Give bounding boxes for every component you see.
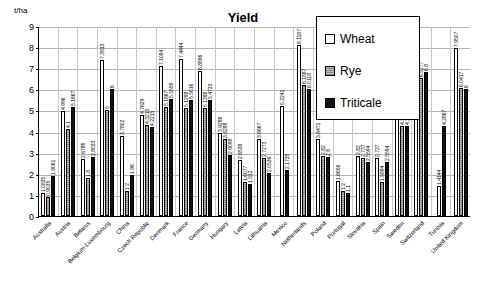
bar-value-label: 5.4733 bbox=[208, 84, 213, 99]
legend-item-rye: Rye bbox=[325, 55, 419, 87]
x-axis-category: Netherlands bbox=[293, 218, 313, 298]
bar-value-label: 2.737 bbox=[375, 145, 380, 158]
bar-wheat: 3.7802 bbox=[120, 136, 124, 216]
bar-rye: 1.6077 bbox=[243, 182, 247, 216]
x-axis-category: Australia bbox=[38, 218, 58, 298]
bar-value-label: 3.7802 bbox=[120, 120, 125, 135]
bar-wheat: 3.9298 bbox=[218, 133, 222, 216]
bar-value-label: 8.1187 bbox=[297, 29, 302, 44]
bar-triticale: 2.9098 bbox=[228, 155, 232, 216]
bar-rye: 4.25 bbox=[400, 126, 404, 216]
y-axis-tick-label: 8 bbox=[29, 43, 34, 53]
bar-rye: 5.1298 bbox=[184, 108, 188, 216]
bar-value-label: 2.8 bbox=[326, 149, 331, 156]
bar-triticale: 4.25 bbox=[405, 126, 409, 216]
bar-wheat: 1.4144 bbox=[437, 186, 441, 216]
bar-value-label: 7.3913 bbox=[100, 44, 105, 59]
bar-wheat: 7.3913 bbox=[100, 60, 104, 216]
bar-triticale: 2.5594 bbox=[385, 162, 389, 216]
y-axis-tick-label: 4 bbox=[29, 128, 34, 138]
bar-value-label: 5.5556 bbox=[169, 82, 174, 97]
bar-value-label: 1.9061 bbox=[51, 159, 56, 174]
bar-wheat: 2.82 bbox=[356, 156, 360, 216]
x-axis-category: Lithuania bbox=[254, 218, 274, 298]
x-axis-category: Denmark bbox=[156, 218, 176, 298]
bar-value-label: 2.7273 bbox=[262, 142, 267, 157]
bar-value-label: 2.5594 bbox=[385, 146, 390, 161]
bar-group: 6.88965.13985.4733 bbox=[196, 27, 216, 216]
bar-value-label: 5.2241 bbox=[280, 89, 285, 104]
chart-legend: Wheat Rye Triticale bbox=[316, 16, 420, 120]
bar-value-label: 2.0536 bbox=[267, 156, 272, 171]
y-axis-tick-label: 2 bbox=[29, 170, 34, 180]
bar-value-label: 4.996 bbox=[61, 97, 66, 110]
bar-value-label: 5.1667 bbox=[71, 91, 76, 106]
legend-label-triticale: Triticale bbox=[340, 96, 382, 110]
x-axis-category: Poland bbox=[313, 218, 333, 298]
bar-wheat: 1.0835 bbox=[41, 193, 45, 216]
legend-swatch-rye-icon bbox=[325, 66, 335, 76]
bar-triticale: 1.9061 bbox=[51, 176, 55, 216]
bar-group: 4.9964.15.1667 bbox=[59, 27, 79, 216]
bar-triticale: 2.5594 bbox=[366, 162, 370, 216]
bar-group: 8.11876.18876.0118 bbox=[294, 27, 314, 216]
y-axis-tick-label: 3 bbox=[29, 149, 34, 159]
y-axis-tick-label: 9 bbox=[29, 22, 34, 32]
bar-rye: 1.5894 bbox=[380, 182, 384, 216]
x-axis-category-label: Austria bbox=[54, 220, 72, 238]
bar-rye: 5 bbox=[105, 110, 109, 216]
x-axis-category-label: Latvia bbox=[233, 220, 249, 236]
bar-value-label: 7.4444 bbox=[179, 43, 184, 58]
bar-value-label: 7.1084 bbox=[159, 50, 164, 65]
bar-triticale: 1.96 bbox=[130, 175, 134, 216]
bar-value-label: 2.5594 bbox=[366, 146, 371, 161]
x-axis-category-labels: AustraliaAustriaBelarusBelgium-Luxembour… bbox=[38, 218, 470, 298]
bar-value-label: 2.6538 bbox=[238, 144, 243, 159]
bar-value-label: 1.512 bbox=[248, 171, 253, 184]
bar-value-label: 1.1 bbox=[346, 185, 351, 192]
bar-value-label: 6.0118 bbox=[307, 73, 312, 88]
bar-triticale: 2.1735 bbox=[285, 170, 289, 216]
bar-wheat: 5.2241 bbox=[280, 106, 284, 216]
bar-value-label: 3.6298 bbox=[223, 123, 228, 138]
bar-rye: 6.0417 bbox=[459, 88, 463, 216]
bar-triticale: 5.4733 bbox=[208, 100, 212, 216]
bar-triticale: 5.5016 bbox=[189, 100, 193, 216]
bar-triticale: 5.1667 bbox=[71, 107, 75, 216]
bar-group: 2.67861.82.8033 bbox=[78, 27, 98, 216]
bar-triticale: 2.0536 bbox=[267, 173, 271, 216]
bar-rye: 4.3215 bbox=[145, 125, 149, 216]
bar-value-label: 2.6786 bbox=[81, 143, 86, 158]
x-axis-category-label: Spain bbox=[371, 220, 387, 236]
bar-group: 1.08350.90351.9061 bbox=[39, 27, 59, 216]
x-axis-category: Belgium-Luxembourg bbox=[97, 218, 117, 298]
bar-value-label: 6 bbox=[464, 86, 469, 89]
bar-group: 5.22412.1735 bbox=[275, 27, 295, 216]
x-axis-category: Germany bbox=[195, 218, 215, 298]
bar-rye: 2.737 bbox=[361, 158, 365, 216]
legend-swatch-wheat-icon bbox=[325, 34, 335, 44]
chart-root: t/ha Yield 0123456789 1.08350.90351.9061… bbox=[0, 0, 486, 302]
x-axis-category: Slovakia bbox=[352, 218, 372, 298]
bar-group: 3.66672.72732.0536 bbox=[255, 27, 275, 216]
bar-rye: 4.1 bbox=[66, 129, 70, 216]
x-axis-category-label: France bbox=[172, 220, 190, 238]
bar-rye: 1.2 bbox=[341, 191, 345, 216]
bar-rye: 1.2 bbox=[125, 191, 129, 216]
bar-group: 7.95076.04176 bbox=[451, 27, 470, 216]
bar-triticale: 6 bbox=[110, 89, 114, 216]
x-axis-category: Tunisia bbox=[431, 218, 451, 298]
bar-value-label: 3.6471 bbox=[316, 123, 321, 138]
bar-value-label: 2.1735 bbox=[285, 154, 290, 169]
bar-rye: 6.1887 bbox=[302, 85, 306, 216]
bar-value-label: 5.5016 bbox=[189, 84, 194, 99]
bar-value-label: 6 bbox=[110, 86, 115, 89]
bar-value-label: 7.9507 bbox=[454, 32, 459, 47]
legend-item-triticale: Triticale bbox=[325, 87, 419, 119]
x-axis-category: Belarus bbox=[77, 218, 97, 298]
y-axis-tick-label: 1 bbox=[29, 191, 34, 201]
bar-wheat: 4.7629 bbox=[140, 115, 144, 216]
bar-value-label: 2.9098 bbox=[228, 138, 233, 153]
bar-group: 4.76294.32154.2215 bbox=[137, 27, 157, 216]
bar-group: 3.92983.62982.9098 bbox=[216, 27, 236, 216]
